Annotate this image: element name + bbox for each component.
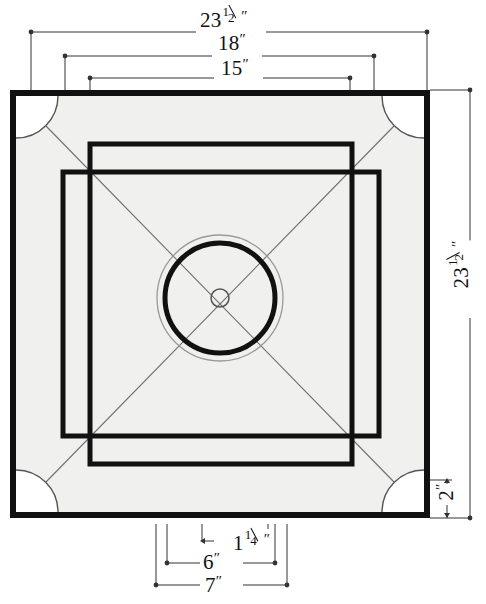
dim-fraction-overall-height: 12 (447, 247, 468, 267)
dim-whole-base-thickness: 1 (233, 531, 244, 555)
inch-mark-icon: ″ (242, 56, 248, 72)
pocket-top-right-icon (382, 54, 466, 138)
inch-mark-icon: ″ (241, 8, 247, 24)
dim-whole-overall-height: 23 (449, 267, 473, 288)
inch-mark-icon: ″ (239, 31, 245, 47)
inch-mark-icon: ″ (216, 573, 222, 589)
dim-arrow-border-bottom (444, 513, 450, 518)
carrom-board-diagram: 2312″ 18″ 15″ 2312″ 2″ 114″ 6″ 7″ (0, 0, 486, 604)
dim-denominator-overall-width: 2 (228, 11, 235, 24)
dim-label-inner-square-width: 15″ (221, 57, 249, 79)
dim-label-overall-height: 2312″ (447, 241, 472, 289)
dim-whole-overall-width: 23 (200, 8, 221, 32)
dim-denominator-overall-height: 2 (453, 254, 466, 261)
inch-mark-icon: ″ (264, 531, 270, 547)
dim-whole-inner-square-width: 15 (221, 56, 242, 80)
dim-whole-frame-border-width: 2 (434, 490, 458, 501)
dim-label-base-line-outer: 7″ (205, 574, 222, 596)
dim-label-base-line-thickness: 114″ (233, 529, 270, 554)
inch-mark-icon: ″ (433, 484, 449, 490)
dim-fraction-base-thickness: 14 (244, 529, 264, 550)
dim-whole-base-inner: 6 (203, 550, 214, 574)
dim-denominator-base-thickness: 4 (250, 534, 257, 547)
dim-label-playfield-width: 18″ (218, 32, 246, 54)
dim-label-base-line-inner: 6″ (203, 551, 220, 573)
inch-mark-icon: ″ (214, 550, 220, 566)
board-drawing (0, 0, 486, 604)
right-dimension-lines (430, 88, 472, 521)
dim-label-frame-border-width: 2″ (434, 484, 456, 501)
dim-label-overall-width: 2312″ (200, 6, 248, 31)
dim-fraction-overall-width: 12 (221, 6, 241, 27)
dim-whole-base-outer: 7 (205, 573, 216, 597)
dim-whole-playfield-width: 18 (218, 31, 239, 55)
